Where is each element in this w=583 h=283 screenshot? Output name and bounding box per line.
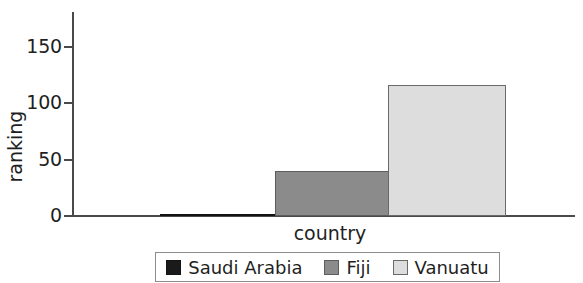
- bar-vanuatu: [388, 85, 506, 216]
- y-tick-100: [64, 102, 73, 104]
- y-tick-label-150: 150: [16, 37, 62, 56]
- y-axis-line: [72, 12, 74, 217]
- legend-swatch-icon-fiji: [324, 260, 339, 275]
- y-tick-50: [64, 159, 73, 161]
- legend-item-vanuatu[interactable]: Vanuatu: [393, 258, 489, 277]
- legend: Saudi Arabia Fiji Vanuatu: [155, 252, 500, 282]
- legend-label-fiji: Fiji: [346, 258, 370, 277]
- bar-saudi-arabia: [160, 214, 275, 216]
- y-tick-150: [64, 46, 73, 48]
- y-tick-label-0: 0: [16, 206, 62, 225]
- legend-label-saudi-arabia: Saudi Arabia: [188, 258, 302, 277]
- legend-swatch-icon-vanuatu: [393, 260, 408, 275]
- legend-item-fiji[interactable]: Fiji: [324, 258, 370, 277]
- x-axis-title: country: [255, 223, 405, 244]
- legend-label-vanuatu: Vanuatu: [415, 258, 489, 277]
- legend-item-saudi-arabia[interactable]: Saudi Arabia: [166, 258, 302, 277]
- bar-chart: 150 100 50 0 ranking country Saudi Arabi…: [0, 0, 583, 283]
- bar-fiji: [275, 171, 389, 216]
- y-tick-label-0-wrap: 0: [0, 206, 62, 225]
- legend-swatch-icon-saudi-arabia: [166, 260, 181, 275]
- y-axis-title: ranking: [6, 97, 25, 197]
- y-tick-label-150-wrap: 150: [0, 37, 62, 56]
